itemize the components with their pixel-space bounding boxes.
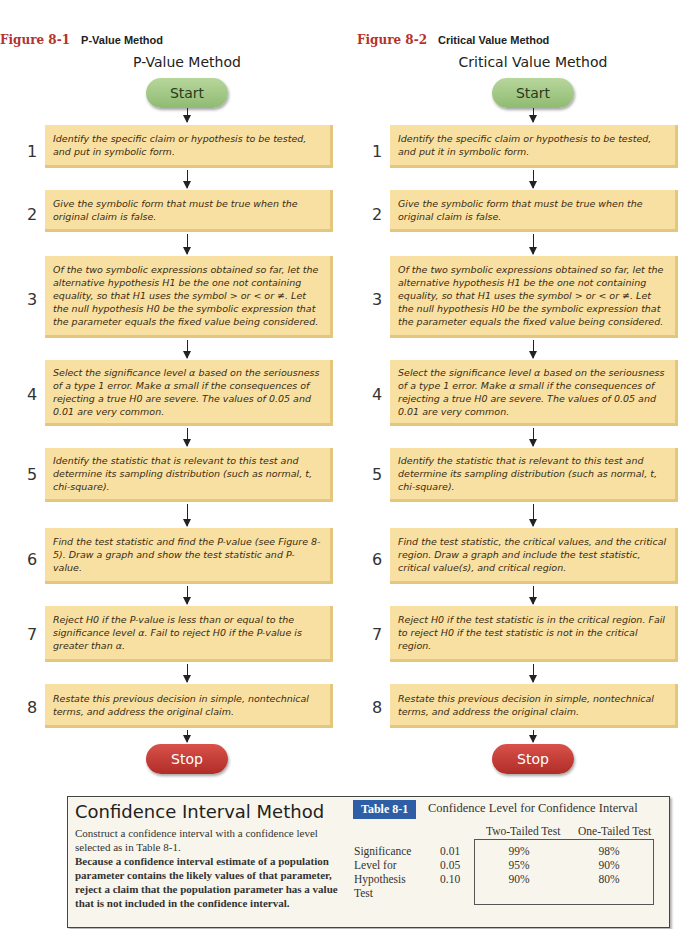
ci-description: Construct a confidence interval with a c… [75,826,345,910]
step-text: Give the symbolic form that must be true… [398,197,667,223]
arrow-icon [187,340,188,358]
arrow-icon [533,428,534,446]
sig-value: 0.01 [440,844,460,858]
arrow-icon [533,504,534,526]
table-significance-column: 0.01 0.05 0.10 [440,844,460,886]
arrow-icon [533,730,534,742]
step-box: Find the test statistic and find the P-v… [45,528,333,584]
figure-title: P-Value Method [81,34,163,46]
ci-intro: Construct a confidence interval with a c… [75,827,318,853]
table-col-header: Two-Tailed Test [486,825,560,837]
arrow-icon [187,664,188,682]
step-box: Select the significance level α based on… [45,360,333,426]
step-number: 4 [367,385,387,404]
step-number: 7 [367,625,387,644]
arrow-icon [533,234,534,254]
step-text: Restate this previous decision in simple… [398,692,667,718]
step-number: 1 [367,142,387,161]
table-badge: Table 8-1 [353,800,416,819]
arrow-icon [533,664,534,682]
step-number: 1 [22,142,42,161]
sig-value: 0.10 [440,872,460,886]
step-text: Select the significance level α based on… [53,366,322,418]
two-tailed-column: 99% 95% 90% [489,844,549,886]
step-text: Reject H0 if the P-value is less than or… [53,613,322,652]
arrow-icon [533,340,534,358]
arrow-icon [187,428,188,446]
step-text: Select the significance level α based on… [398,366,667,418]
step-box: Give the symbolic form that must be true… [390,190,678,232]
flow-title-pvalue: P-Value Method [22,54,352,70]
step-box: Reject H0 if the P-value is less than or… [45,606,333,662]
step-text: Find the test statistic and find the P-v… [53,535,322,574]
step-number: 7 [22,625,42,644]
step-box: Identify the specific claim or hypothesi… [390,125,678,168]
arrow-icon [187,108,188,122]
step-text: Give the symbolic form that must be true… [53,197,322,223]
table-cell: 98% [579,844,639,858]
table-cell: 99% [489,844,549,858]
step-text: Restate this previous decision in simple… [53,692,322,718]
ci-rule: Because a confidence interval estimate o… [75,854,345,910]
table-cell: 80% [579,872,639,886]
figure-title: Critical Value Method [438,34,549,46]
row-label-line: Test [354,886,411,900]
figure-caption-right: Figure 8-2 Critical Value Method [357,33,549,47]
arrow-icon [533,108,534,122]
step-number: 6 [22,550,42,569]
step-box: Reject H0 if the test statistic is in th… [390,606,678,662]
row-label-line: Level for [354,858,411,872]
step-number: 2 [367,205,387,224]
step-number: 5 [367,465,387,484]
arrow-icon [187,504,188,526]
step-number: 4 [22,385,42,404]
step-text: Identify the specific claim or hypothesi… [398,132,667,158]
step-text: Reject H0 if the test statistic is in th… [398,613,667,652]
step-text: Find the test statistic, the critical va… [398,535,667,574]
sig-value: 0.05 [440,858,460,872]
stop-node: Stop [146,744,228,774]
table-cell: 90% [489,872,549,886]
step-text: Identify the statistic that is relevant … [398,454,667,493]
step-box: Select the significance level α based on… [390,360,678,426]
step-box: Identify the specific claim or hypothesi… [45,125,333,168]
flow-title-critical: Critical Value Method [368,54,698,70]
figure-caption-left: Figure 8-1 P-Value Method [0,33,163,47]
step-box: Of the two symbolic expressions obtained… [390,256,678,338]
arrow-icon [187,234,188,254]
table-col-header: One-Tailed Test [578,825,651,837]
table-cell: 95% [489,858,549,872]
stop-node: Stop [492,744,574,774]
start-node: Start [492,78,574,108]
row-label-line: Significance [354,844,411,858]
step-text: Identify the statistic that is relevant … [53,454,322,493]
arrow-icon [187,170,188,188]
step-box: Identify the statistic that is relevant … [390,448,678,502]
start-node: Start [146,78,228,108]
table-values-box: 99% 95% 90% 98% 90% 80% [474,839,654,905]
table-cell: 90% [579,858,639,872]
table-row-label: Significance Level for Hypothesis Test [354,844,411,900]
step-box: Restate this previous decision in simple… [45,684,333,728]
step-box: Of the two symbolic expressions obtained… [45,256,333,338]
step-number: 5 [22,465,42,484]
step-text: Of the two symbolic expressions obtained… [398,263,667,328]
step-box: Find the test statistic, the critical va… [390,528,678,584]
figure-number: Figure 8-1 [0,33,70,47]
step-box: Identify the statistic that is relevant … [45,448,333,502]
ci-title: Confidence Interval Method [75,801,324,822]
arrow-icon [187,730,188,742]
step-number: 3 [22,290,42,309]
arrow-icon [187,586,188,604]
step-number: 2 [22,205,42,224]
step-text: Of the two symbolic expressions obtained… [53,263,322,328]
row-label-line: Hypothesis [354,872,411,886]
arrow-icon [533,170,534,188]
step-box: Give the symbolic form that must be true… [45,190,333,232]
step-text: Identify the specific claim or hypothesi… [53,132,322,158]
table-caption: Confidence Level for Confidence Interval [428,801,638,816]
figure-number: Figure 8-2 [357,33,427,47]
step-number: 8 [22,698,42,717]
step-box: Restate this previous decision in simple… [390,684,678,728]
one-tailed-column: 98% 90% 80% [579,844,639,886]
